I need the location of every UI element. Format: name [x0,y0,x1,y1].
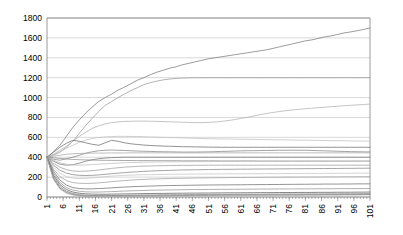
x-axis-tick-label: 76 [284,204,294,214]
x-axis-tick-label: 26 [123,204,133,214]
x-axis-tick-label: 56 [220,204,230,214]
x-axis-tick-label: 1 [42,204,52,209]
line-chart: 0200400600800100012001400160018001611162… [0,0,403,235]
series-line-18 [47,157,370,195]
x-axis-tick-label: 86 [317,204,327,214]
y-axis-tick-label: 600 [28,132,42,142]
x-axis-tick-label: 66 [252,204,262,214]
x-axis-tick-label: 36 [155,204,165,214]
x-axis-tick-label: 81 [300,204,310,214]
series-line-16 [47,157,370,192]
y-axis-tick-label: 200 [28,172,42,182]
y-axis-tick-label: 1600 [23,33,42,43]
x-axis-tick-label: 96 [349,204,359,214]
x-axis-tick-label: 31 [139,204,149,214]
series-line-10 [47,157,370,165]
y-axis-tick-label: 1400 [23,53,42,63]
x-axis-tick-label: 61 [236,204,246,214]
x-axis-tick-label: 91 [333,204,343,214]
x-axis-tick-label: 6 [58,204,68,209]
y-axis-tick-label: 1000 [23,93,42,103]
x-axis-tick-label: 71 [268,204,278,214]
y-axis-tick-label: 1800 [23,13,42,23]
x-axis-tick-label: 21 [107,204,117,214]
x-axis-tick-label: 16 [90,204,100,214]
series-line-7 [47,153,370,157]
series-line-5 [47,140,370,157]
series-line-6 [47,150,370,160]
x-axis-tick-label: 46 [187,204,197,214]
y-axis-tick-label: 400 [28,152,42,162]
chart-container: 0200400600800100012001400160018001611162… [0,0,403,235]
y-axis-tick-label: 1200 [23,73,42,83]
y-axis-tick-label: 0 [37,192,42,202]
x-axis-tick-label: 101 [365,204,375,218]
y-axis-tick-label: 800 [28,112,42,122]
x-axis-tick-label: 51 [204,204,214,214]
x-axis-tick-label: 11 [74,204,84,213]
series-line-3 [47,104,370,157]
x-axis-tick-label: 41 [171,204,181,214]
